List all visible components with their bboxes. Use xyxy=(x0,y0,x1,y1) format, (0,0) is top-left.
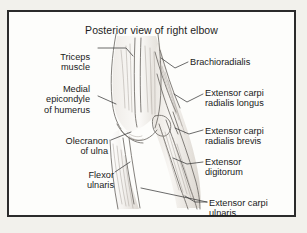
figure-plate: Posterior view of right elbow xyxy=(7,10,296,217)
figure-panel: Posterior view of right elbow xyxy=(0,0,307,233)
label-flexor-ulnaris: Flexor ulnaris xyxy=(87,170,114,191)
label-brachioradialis: Brachioradialis xyxy=(190,57,250,67)
label-olecranon-of-ulna: Olecranon of ulna xyxy=(66,136,108,157)
figure-title: Posterior view of right elbow xyxy=(9,24,294,36)
anatomy-illustration xyxy=(9,12,298,219)
label-extensor-carpi-radialis-brevis: Extensor carpi radialis brevis xyxy=(205,126,264,147)
label-extensor-carpi-radialis-longus: Extensor carpi radialis longus xyxy=(205,88,264,109)
limb-silhouette xyxy=(109,36,201,209)
label-extensor-digitorum: Extensor digitorum xyxy=(205,157,243,178)
leader-lines xyxy=(98,48,207,202)
label-extensor-carpi-ulnaris: Extensor carpi ulnaris xyxy=(209,198,268,219)
label-medial-epicondyle-of-humerus: Medial epicondyle of humerus xyxy=(44,84,90,115)
label-triceps-muscle: Triceps muscle xyxy=(60,52,90,73)
